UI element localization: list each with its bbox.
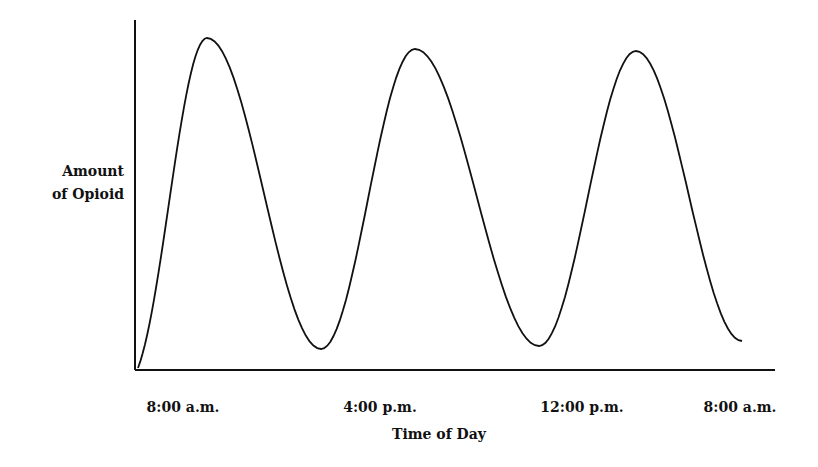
x-axis-label: Time of Day — [0, 426, 818, 442]
y-axis-label-line-1: Amount — [30, 160, 124, 183]
y-axis-label-line-2: of Opioid — [30, 183, 124, 206]
x-tick-label-12pm: 12:00 p.m. — [540, 399, 623, 415]
x-tick-label-8am-end: 8:00 a.m. — [704, 399, 777, 415]
y-axis-label: Amount of Opioid — [30, 160, 124, 206]
x-tick-label-8am-start: 8:00 a.m. — [147, 399, 220, 415]
x-tick-label-4pm: 4:00 p.m. — [343, 399, 417, 415]
opioid-level-curve — [138, 38, 742, 368]
chart-canvas — [0, 0, 818, 467]
